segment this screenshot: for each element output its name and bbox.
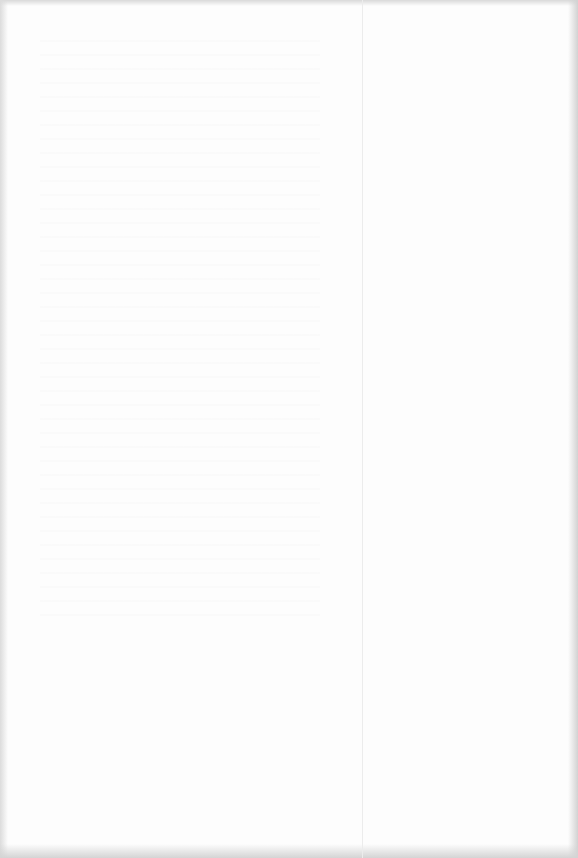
- page-top-edge-shadow: [0, 0, 578, 6]
- page-right-edge-shadow: [568, 0, 578, 858]
- bleed-through-texture: [40, 40, 320, 620]
- scanned-blank-page: [0, 0, 578, 858]
- page-left-edge-shadow: [0, 0, 8, 858]
- page-bottom-edge-shadow: [0, 844, 578, 858]
- page-fold-line: [362, 0, 363, 858]
